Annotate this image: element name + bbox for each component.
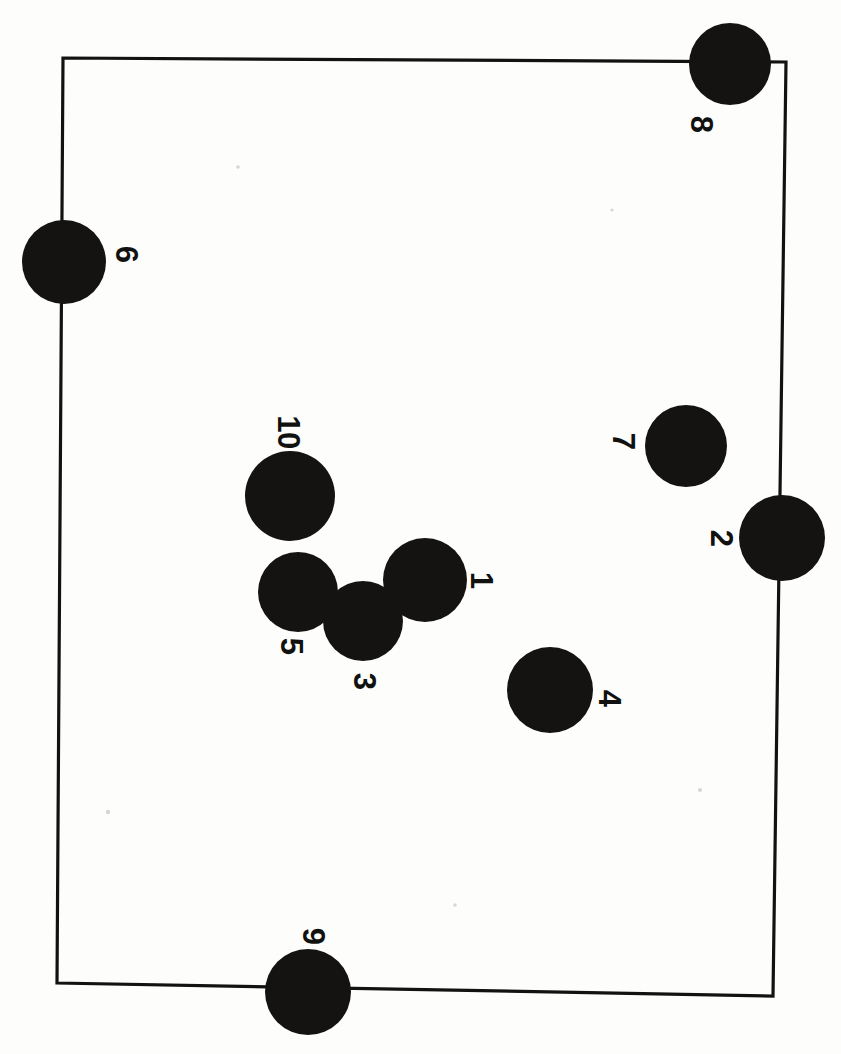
marker-label-10: 10 <box>271 415 306 448</box>
scatter-diagram: 12345678910 <box>0 0 841 1054</box>
marker-circle-5[interactable] <box>258 552 338 632</box>
marker-circle-9[interactable] <box>265 949 351 1035</box>
marker-label-6: 6 <box>109 246 144 263</box>
marker-label-2: 2 <box>704 530 739 547</box>
marker-label-8: 8 <box>684 116 719 133</box>
marker-label-5: 5 <box>274 638 309 655</box>
marker-circle-4[interactable] <box>507 647 593 733</box>
figure-canvas: 12345678910 <box>0 0 841 1054</box>
marker-label-3: 3 <box>347 673 382 690</box>
marker-circle-2[interactable] <box>739 495 825 581</box>
scan-artifacts <box>106 165 702 907</box>
marker-circle-7[interactable] <box>645 405 727 487</box>
marker-label-group: 12345678910 <box>109 116 739 945</box>
marker-label-1: 1 <box>464 572 499 589</box>
marker-label-7: 7 <box>606 433 641 450</box>
marker-circle-8[interactable] <box>689 23 771 105</box>
marker-circle-6[interactable] <box>22 220 106 304</box>
marker-label-4: 4 <box>592 690 627 708</box>
marker-circle-10[interactable] <box>245 451 335 541</box>
marker-label-9: 9 <box>296 928 331 945</box>
field-boundary <box>57 58 786 996</box>
